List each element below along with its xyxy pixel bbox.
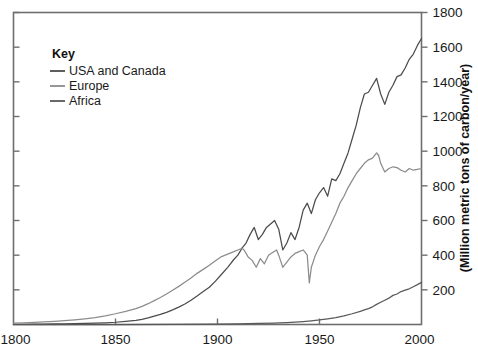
y-tick-label: 1800 <box>433 5 463 20</box>
line-chart: 20040060080010001200140016001800 1800185… <box>0 0 478 357</box>
y-tick-label: 400 <box>433 248 456 263</box>
chart-container: 20040060080010001200140016001800 1800185… <box>0 0 478 357</box>
y-tick-label: 1600 <box>433 40 463 55</box>
x-tick-label: 1850 <box>100 332 130 347</box>
x-tick-label: 2000 <box>404 332 434 347</box>
y-tick-label: 200 <box>433 283 456 298</box>
legend-label-europe: Europe <box>69 79 109 93</box>
legend-title: Key <box>52 47 75 61</box>
x-tick-label: 1800 <box>1 332 31 347</box>
y-tick-label: 600 <box>433 213 456 228</box>
x-tick-label: 1950 <box>304 332 334 347</box>
legend-label-africa: Africa <box>69 94 101 108</box>
legend-label-usa-and-canada: USA and Canada <box>69 64 166 78</box>
y-axis-title: (Million metric tons of carbon/year) <box>458 64 472 272</box>
x-tick-label: 1900 <box>202 332 232 347</box>
y-tick-label: 800 <box>433 179 456 194</box>
